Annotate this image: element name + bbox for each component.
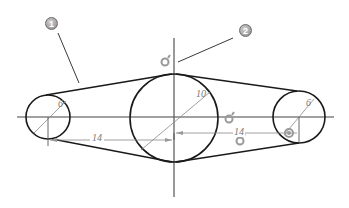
belt-top-right[interactable] <box>176 74 297 91</box>
callout-1-badge: 1 <box>45 17 58 30</box>
belt-bottom-left[interactable] <box>52 139 172 162</box>
constraint-icon[interactable] <box>162 55 171 66</box>
belt-pulley-sketch <box>0 0 349 208</box>
left-diameter-value: 6 <box>58 98 63 109</box>
center-radius-value: 10 <box>196 88 206 99</box>
callout-2-badge: 2 <box>239 24 252 37</box>
right-diameter-value: 6 <box>306 97 311 108</box>
callout-2-leader <box>178 38 233 62</box>
left-distance-value: 14 <box>90 132 104 143</box>
arrowhead <box>165 138 172 142</box>
right-distance-value: 14 <box>233 126 245 137</box>
center-radius-line <box>141 92 210 150</box>
belt-top-left[interactable] <box>46 74 172 95</box>
belt-bottom-right[interactable] <box>176 143 299 162</box>
callout-1-leader <box>58 33 79 83</box>
arrowhead <box>176 131 183 135</box>
